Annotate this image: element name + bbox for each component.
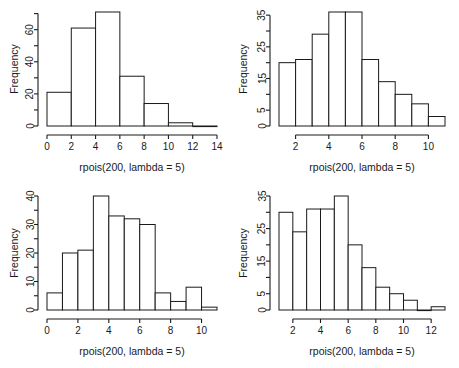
histogram-svg: 0204060Frequency02468101214rpois(200, la…: [0, 0, 229, 184]
histogram-bar: [78, 250, 93, 310]
histogram-panel-grid: 0204060Frequency02468101214rpois(200, la…: [0, 0, 459, 368]
y-axis-tick-label: 40: [25, 56, 36, 68]
histogram-bar: [71, 28, 95, 126]
histogram-svg: 010203040Frequency0246810rpois(200, lamb…: [0, 184, 229, 368]
x-axis-title: rpois(200, lambda = 5): [79, 161, 184, 173]
y-axis-tick-label: 0: [25, 123, 36, 129]
histogram-bar: [120, 76, 144, 126]
x-axis-tick-label: 2: [69, 141, 75, 152]
x-axis-tick-label: 6: [137, 325, 143, 336]
histogram-bar: [171, 301, 186, 310]
x-axis-tick-label: 4: [326, 141, 332, 152]
histogram-bar: [395, 94, 412, 126]
histogram-bar: [376, 287, 390, 310]
x-axis: 24681012: [290, 319, 437, 336]
x-axis-tick-label: 8: [141, 141, 147, 152]
histogram-bar: [140, 225, 155, 311]
histogram-bar: [93, 196, 108, 310]
x-axis-tick-label: 4: [318, 325, 324, 336]
histogram-bar: [312, 34, 329, 126]
y-axis-tick-label: 5: [257, 290, 268, 296]
panel-bottom-left: 010203040Frequency0246810rpois(200, lamb…: [0, 184, 229, 368]
y-axis-tick-label: 35: [257, 9, 268, 21]
y-axis: 05152535: [257, 190, 271, 313]
x-axis-tick-label: 10: [398, 325, 410, 336]
x-axis-tick-label: 6: [117, 141, 123, 152]
y-axis-title: Frequency: [8, 43, 20, 93]
histogram-bar: [321, 209, 335, 310]
y-axis-tick-label: 5: [257, 107, 268, 113]
y-axis-tick-label: 0: [257, 123, 268, 129]
histogram-bar: [62, 253, 77, 310]
histogram-bar: [428, 117, 445, 127]
histogram-bar: [431, 307, 445, 310]
histogram-bar: [307, 209, 321, 310]
histogram-bar: [186, 287, 201, 310]
x-axis-tick-label: 6: [359, 141, 365, 152]
x-axis-tick-label: 2: [293, 141, 299, 152]
bar-series: [279, 12, 445, 126]
y-axis: 05152535: [257, 9, 271, 129]
y-axis-tick-label: 15: [257, 255, 268, 267]
x-axis-tick-label: 10: [423, 141, 435, 152]
histogram-bar: [124, 219, 139, 310]
panel-top-right: 05152535Frequency246810rpois(200, lambda…: [229, 0, 459, 184]
y-axis-tick-label: 0: [25, 307, 36, 313]
x-axis: 0246810: [44, 319, 207, 336]
y-axis-tick-label: 60: [25, 24, 36, 36]
histogram-bar: [168, 123, 192, 126]
y-axis-tick-label: 20: [25, 247, 36, 259]
x-axis-title: rpois(200, lambda = 5): [79, 345, 184, 357]
y-axis-title: Frequency: [237, 43, 249, 93]
histogram-bar: [345, 12, 362, 126]
x-axis-tick-label: 6: [345, 325, 351, 336]
histogram-bar: [155, 293, 170, 310]
histogram-bar: [109, 216, 124, 310]
histogram-bar: [279, 212, 293, 310]
x-axis-tick-label: 2: [290, 325, 296, 336]
x-axis-tick-label: 0: [44, 141, 50, 152]
y-axis: 010203040: [25, 190, 39, 313]
x-axis-tick-label: 8: [373, 325, 379, 336]
histogram-bar: [329, 12, 346, 126]
x-axis-tick-label: 14: [211, 141, 223, 152]
histogram-svg: 05152535Frequency246810rpois(200, lambda…: [229, 0, 459, 184]
histogram-bar: [334, 196, 348, 310]
x-axis-tick-label: 10: [163, 141, 175, 152]
bar-series: [279, 196, 445, 311]
histogram-bar: [202, 307, 217, 310]
histogram-bar: [390, 294, 404, 310]
x-axis: 246810: [293, 135, 435, 152]
x-axis-tick-label: 10: [196, 325, 208, 336]
y-axis-tick-label: 15: [257, 73, 268, 85]
y-axis-tick-label: 10: [25, 276, 36, 288]
y-axis-title: Frequency: [8, 227, 20, 277]
histogram-bar: [379, 82, 396, 126]
x-axis-tick-label: 4: [93, 141, 99, 152]
y-axis-tick-label: 35: [257, 190, 268, 202]
panel-bottom-right: 05152535Frequency24681012rpois(200, lamb…: [229, 184, 459, 368]
y-axis-title: Frequency: [237, 227, 249, 277]
y-axis-tick-label: 25: [257, 41, 268, 53]
histogram-bar: [193, 126, 217, 127]
bar-series: [47, 12, 217, 127]
histogram-bar: [47, 293, 62, 310]
x-axis: 02468101214: [44, 135, 223, 152]
panel-top-left: 0204060Frequency02468101214rpois(200, la…: [0, 0, 229, 184]
x-axis-tick-label: 0: [44, 325, 50, 336]
x-axis-tick-label: 4: [106, 325, 112, 336]
histogram-bar: [404, 300, 418, 310]
x-axis-title: rpois(200, lambda = 5): [309, 345, 414, 357]
x-axis-tick-label: 8: [392, 141, 398, 152]
bar-series: [47, 196, 217, 310]
x-axis-tick-label: 12: [187, 141, 199, 152]
x-axis-title: rpois(200, lambda = 5): [309, 161, 414, 173]
histogram-bar: [279, 63, 296, 126]
y-axis-tick-label: 25: [257, 223, 268, 235]
x-axis-tick-label: 8: [168, 325, 174, 336]
histogram-bar: [47, 92, 71, 126]
y-axis-tick-label: 20: [25, 88, 36, 100]
histogram-bar: [293, 232, 307, 310]
histogram-bar: [362, 268, 376, 310]
y-axis-tick-label: 40: [25, 190, 36, 202]
